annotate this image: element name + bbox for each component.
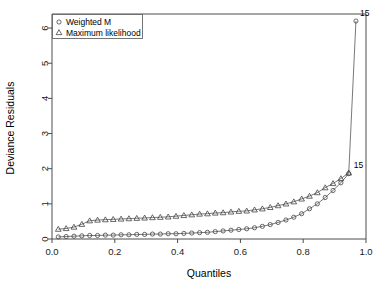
x-tick-label: 0.6 <box>234 246 247 257</box>
y-tick-label: 2 <box>39 166 50 171</box>
series-polyline <box>58 21 356 237</box>
series-2 <box>55 170 351 231</box>
x-tick-label: 1.0 <box>359 246 372 257</box>
x-axis-title: Quantiles <box>187 267 231 279</box>
legend-label: Maximum likelihood <box>66 28 141 38</box>
data-series-layer <box>55 19 358 239</box>
point-annotations: 1515 <box>354 8 370 170</box>
x-tick-label: 0.2 <box>108 246 121 257</box>
y-tick-label: 5 <box>39 61 50 66</box>
x-tick-label: 0.4 <box>171 246 184 257</box>
chart-container: 0123456 0.00.20.40.60.81.0 1515 Weighted… <box>0 0 390 288</box>
y-axis-ticks: 0123456 <box>39 25 53 241</box>
point-label: 15 <box>360 8 370 18</box>
x-tick-label: 0.8 <box>297 246 310 257</box>
point-label: 15 <box>354 160 364 170</box>
deviance-residuals-qq-plot: 0123456 0.00.20.40.60.81.0 1515 Weighted… <box>0 0 390 288</box>
y-axis-title: Deviance Residuals <box>4 82 16 175</box>
y-tick-label: 4 <box>39 96 50 101</box>
chart-legend: Weighted MMaximum likelihood <box>53 15 143 39</box>
y-tick-label: 1 <box>39 201 50 206</box>
y-tick-label: 0 <box>39 236 50 241</box>
y-tick-label: 3 <box>39 131 50 136</box>
series-polyline <box>58 173 348 229</box>
y-tick-label: 6 <box>39 25 50 30</box>
legend-label: Weighted M <box>66 17 111 27</box>
x-axis-ticks: 0.00.20.40.60.81.0 <box>45 239 372 257</box>
series-1 <box>56 19 358 239</box>
x-tick-label: 0.0 <box>45 246 58 257</box>
